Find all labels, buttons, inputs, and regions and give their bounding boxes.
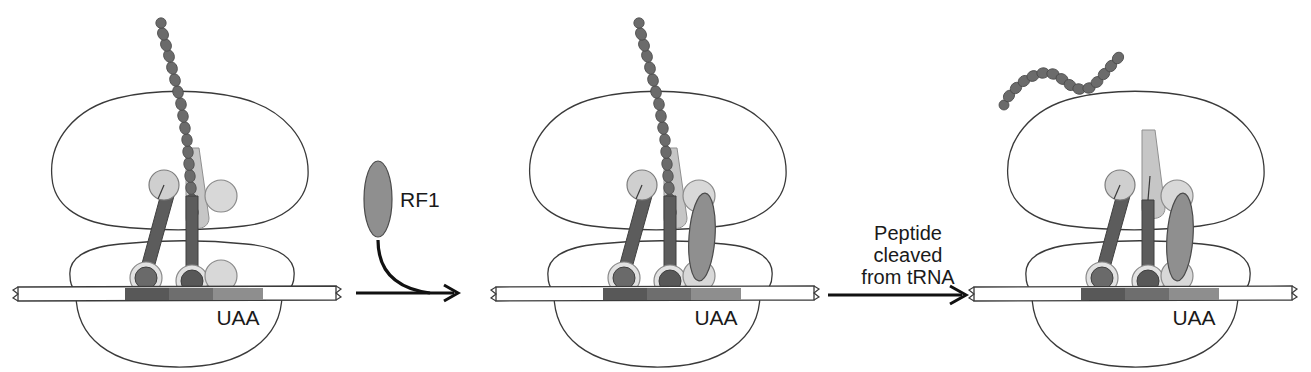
codon-block-e	[603, 288, 647, 300]
codon-block-e	[1081, 288, 1125, 300]
small-subunit-dome	[554, 294, 760, 367]
panel-1: UAA	[13, 18, 341, 367]
rf1-label: RF1	[400, 188, 440, 211]
mrna-strand	[491, 286, 819, 301]
codon-block-stop	[1169, 288, 1219, 300]
codon-block-stop	[691, 288, 741, 300]
a-site-upper-circle	[205, 180, 237, 212]
rf1-oval	[364, 161, 392, 237]
large-subunit	[1008, 91, 1264, 230]
mrna-strand	[969, 286, 1297, 301]
step-label-line-1: Peptide	[874, 222, 942, 244]
codon-block-e	[125, 288, 169, 300]
stop-codon-label-panel-1: UAA	[216, 306, 259, 329]
stop-codon-label-panel-2: UAA	[694, 306, 737, 329]
codon-block-p	[1125, 288, 1169, 300]
small-subunit-dome	[1032, 294, 1238, 367]
mrna-strand	[13, 286, 341, 301]
codon-block-p	[169, 288, 213, 300]
panel-3: UAA	[969, 50, 1297, 367]
transition-rf1: RF1	[356, 161, 458, 301]
codon-block-p	[647, 288, 691, 300]
step-label-line-3: from tRNA	[861, 266, 955, 288]
transition-peptide-cleavage: Peptide cleaved from tRNA	[828, 222, 966, 304]
step-label-line-2: cleaved	[874, 244, 943, 266]
rf1-entry-curve	[378, 240, 430, 293]
stop-codon-label-panel-3: UAA	[1172, 306, 1215, 329]
figure-canvas: UAA RF1	[0, 0, 1311, 372]
small-subunit-dome	[76, 294, 282, 367]
translation-termination-diagram: UAA RF1	[0, 0, 1311, 372]
codon-block-stop	[213, 288, 263, 300]
panel-2: UAA	[491, 18, 819, 367]
